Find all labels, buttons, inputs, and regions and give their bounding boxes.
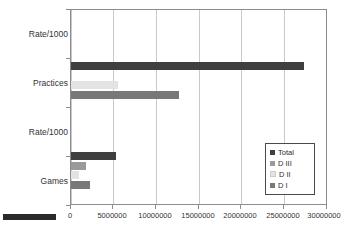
legend-swatch-icon bbox=[270, 150, 275, 155]
y-axis-label-rate1000-top: Rate/1000 bbox=[0, 29, 68, 39]
legend-swatch-icon bbox=[270, 183, 275, 188]
legend-item-dii: D II bbox=[270, 169, 311, 179]
legend-label: D II bbox=[279, 170, 291, 179]
y-axis-tick bbox=[66, 107, 70, 108]
legend-label: D III bbox=[278, 159, 292, 168]
x-axis-label-30000000: 30000000 bbox=[307, 211, 340, 220]
x-axis-tick bbox=[283, 205, 284, 209]
y-axis-label-practices: Practices bbox=[0, 78, 68, 88]
chart-legend: Total D III D II D I bbox=[265, 143, 315, 195]
bar-games-dii bbox=[71, 171, 79, 179]
legend-label: D I bbox=[278, 181, 288, 190]
x-axis-tick bbox=[70, 205, 71, 209]
bar-practices-dii bbox=[71, 81, 118, 89]
bar-games-diii bbox=[71, 162, 86, 170]
bar-chart: Rate/1000 Practices Rate/1000 Games 0 50… bbox=[0, 0, 347, 227]
legend-item-diii: D III bbox=[270, 158, 311, 168]
y-axis-label-games: Games bbox=[0, 176, 68, 186]
x-axis-tick bbox=[198, 205, 199, 209]
y-axis-tick bbox=[66, 9, 70, 10]
legend-item-total: Total bbox=[270, 147, 311, 157]
legend-swatch-icon bbox=[270, 161, 275, 166]
bar-practices-di bbox=[71, 91, 179, 99]
x-axis-label-0: 0 bbox=[68, 211, 72, 220]
y-axis-tick bbox=[66, 58, 70, 59]
legend-swatch-icon bbox=[270, 171, 276, 177]
x-axis-label-20000000: 20000000 bbox=[223, 211, 256, 220]
x-axis-label-5000000: 5000000 bbox=[97, 211, 126, 220]
bar-group-practices bbox=[71, 61, 326, 104]
x-axis-tick bbox=[112, 205, 113, 209]
bar-games-total bbox=[71, 152, 116, 160]
x-axis-label-25000000: 25000000 bbox=[266, 211, 299, 220]
y-axis-label-rate1000-bottom: Rate/1000 bbox=[0, 127, 68, 137]
bar-games-di bbox=[71, 181, 90, 189]
x-axis-label-15000000: 15000000 bbox=[181, 211, 214, 220]
x-axis-tick bbox=[155, 205, 156, 209]
x-axis-tick bbox=[326, 205, 327, 209]
x-axis-tick bbox=[240, 205, 241, 209]
legend-label: Total bbox=[278, 148, 294, 157]
bar-practices-total bbox=[71, 62, 304, 70]
x-axis-label-10000000: 10000000 bbox=[138, 211, 171, 220]
bar-group-rate1000-top bbox=[71, 16, 326, 59]
y-axis-tick bbox=[66, 156, 70, 157]
scan-artifact bbox=[3, 214, 56, 220]
legend-item-di: D I bbox=[270, 180, 311, 190]
